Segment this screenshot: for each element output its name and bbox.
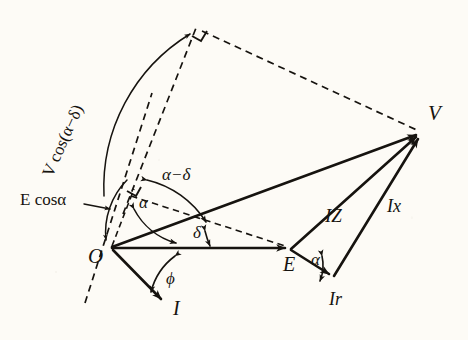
phasor-i xyxy=(113,250,161,299)
label-alpha-origin: α xyxy=(139,193,149,212)
label-e: E xyxy=(282,253,295,275)
label-origin: O xyxy=(88,244,103,268)
label-ir: Ir xyxy=(328,289,343,309)
arc-delta xyxy=(205,231,210,246)
apex-to-v-dashed xyxy=(202,31,419,131)
label-iz: IZ xyxy=(324,205,342,226)
leader-e-cos-alpha xyxy=(84,204,110,209)
label-delta: δ xyxy=(193,223,202,242)
label-alpha-minus-delta: α−δ xyxy=(162,165,191,184)
phasor-iz xyxy=(291,137,416,249)
label-v-cos-alpha-minus-delta: V cos(α−δ) xyxy=(38,102,87,180)
label-ix: Ix xyxy=(386,196,401,216)
phasor-v xyxy=(112,135,416,247)
label-phi: ϕ xyxy=(166,269,175,288)
projection-diagonal-dashed xyxy=(131,196,288,247)
phasor-diagram: O V E I IZ Ix Ir α δ α−δ ϕ α E cosα V co… xyxy=(0,0,468,340)
origin-to-apex-dashed xyxy=(123,28,196,214)
label-alpha-at-e: α xyxy=(311,250,321,269)
label-i: I xyxy=(172,297,181,319)
label-v: V xyxy=(428,101,443,125)
figure-canvas: O V E I IZ Ix Ir α δ α−δ ϕ α E cosα V co… xyxy=(0,0,468,340)
e-projection-dashed xyxy=(112,189,134,246)
label-e-cos-alpha: E cosα xyxy=(20,190,66,209)
